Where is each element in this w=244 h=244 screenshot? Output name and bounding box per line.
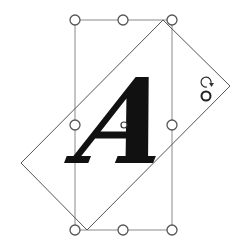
resize-handle-bottom-center[interactable]: [118, 225, 128, 235]
resize-handle-bottom-left[interactable]: [70, 225, 80, 235]
resize-handle-middle-right[interactable]: [167, 120, 177, 130]
resize-handle-top-right[interactable]: [167, 15, 177, 25]
handles-layer: [0, 0, 244, 244]
resize-handle-middle-left[interactable]: [70, 120, 80, 130]
center-pivot-handle[interactable]: [121, 122, 127, 128]
resize-handle-top-center[interactable]: [118, 15, 128, 25]
rotate-icon: [201, 77, 214, 87]
rotation-handle[interactable]: [202, 92, 211, 101]
resize-handle-bottom-right[interactable]: [167, 225, 177, 235]
resize-handle-top-left[interactable]: [70, 15, 80, 25]
